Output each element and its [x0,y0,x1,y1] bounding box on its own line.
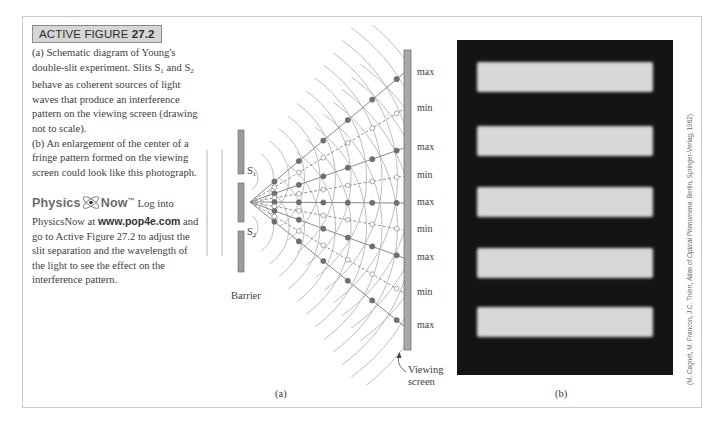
destructive-node [345,183,350,188]
destructive-node [321,155,326,160]
constructive-node [370,244,375,249]
constructive-node [272,179,277,184]
constructive-node [345,235,350,240]
constructive-node [394,77,399,82]
destructive-node [394,286,399,291]
constructive-node [370,298,375,303]
bright-fringe [477,248,653,278]
screen-label-line-1: Viewing [408,364,444,376]
screen-mark-max: max [417,141,434,152]
barrier-bottom [238,231,244,272]
screen-label-line-2: screen [408,376,444,388]
panel-a-label: (a) [275,388,287,399]
destructive-node [296,170,301,175]
viewing-screen-label: Viewingscreen [408,364,444,388]
constructive-node [272,219,277,224]
destructive-node [296,208,301,213]
destructive-node [321,243,326,248]
bright-fringe [477,307,653,337]
screen-mark-min: min [417,169,433,180]
slit-1-label: S1 [247,165,256,178]
constructive-node [370,97,375,102]
screen-mark-max: max [417,251,434,262]
credit-suffix: . Berlin, Springer-Verlag, 1962) [686,114,693,202]
constructive-node [321,200,326,205]
slit-1-sub: 1 [253,170,257,178]
destructive-node [321,187,326,192]
credit-title: Atlas of Optical Phenomena [686,202,693,281]
viewing-screen [404,50,411,350]
destructive-node [345,257,350,262]
constructive-node [345,117,350,122]
destructive-node [370,179,375,184]
barrier-top [238,130,244,174]
slit-2-label: S2 [247,226,256,239]
slit-2-sub: 2 [253,231,257,239]
constructive-node [296,200,301,205]
destructive-node [394,226,399,231]
wavefront-arc [333,53,397,303]
screen-mark-max: max [417,319,434,330]
bright-fringe [477,126,653,156]
barrier-middle [238,183,244,222]
constructive-node [296,217,301,222]
destructive-node [296,191,301,196]
destructive-node [272,185,277,190]
screen-mark-max: max [417,66,434,77]
constructive-node [296,182,301,187]
destructive-node [370,126,375,131]
destructive-node [345,217,350,222]
destructive-node [296,228,301,233]
wavefront-arc [297,104,335,253]
constructive-node [394,148,399,153]
credit-prefix: (M. Cagnet, M. Francon, J.C. Thierr, [686,281,693,385]
constructive-node [321,226,326,231]
constructive-node [321,174,326,179]
screen-mark-min: min [417,286,433,297]
constructive-node [296,239,301,244]
screen-mark-max: max [417,196,434,207]
constructive-node [394,253,399,258]
bright-fringe [477,62,653,92]
wavefront-arc [342,41,413,316]
constructive-node [370,157,375,162]
screen-mark-min: min [417,102,433,113]
destructive-node [345,141,350,146]
constructive-node [321,258,326,263]
destructive-node [321,213,326,218]
photo-credit: (M. Cagnet, M. Francon, J.C. Thierr, Atl… [686,114,693,385]
constructive-node [321,138,326,143]
destructive-node [272,214,277,219]
wavefront-arc [342,90,413,365]
constructive-node [296,158,301,163]
panel-b-label: (b) [555,388,567,399]
fringe-photograph [457,40,673,375]
constructive-node [394,200,399,205]
screen-arrow [398,356,406,372]
constructive-node [272,208,277,213]
screen-mark-min: min [417,223,433,234]
constructive-node [345,278,350,283]
bright-fringe [477,187,653,217]
wavefront-arc [297,153,335,302]
constructive-node [345,200,350,205]
destructive-node [370,272,375,277]
destructive-node [394,111,399,116]
constructive-node [345,165,350,170]
constructive-node [370,200,375,205]
destructive-node [370,222,375,227]
barrier-label: Barrier [231,290,261,301]
constructive-node [394,317,399,322]
destructive-node [394,175,399,180]
wavefront-arc [306,140,351,314]
